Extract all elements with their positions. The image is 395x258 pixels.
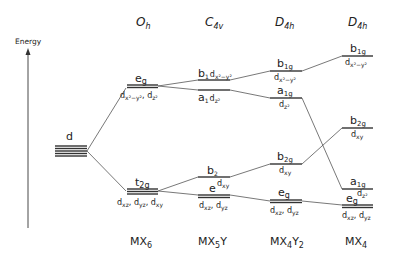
level-d4h2-b1g: b1g dx²−y²: [342, 42, 373, 69]
level-d4h1-a1g: a1g dz²: [270, 84, 302, 110]
svg-text:dxz, dyz, dxy: dxz, dyz, dxy: [117, 198, 163, 209]
level-d4h1-b2g: b2g dxy: [270, 150, 302, 177]
level-d: d: [55, 130, 87, 156]
column-d4h-mx4: b1g dx²−y² b2g dxy a1g dz² eg dxz, dyz: [342, 42, 373, 222]
svg-text:dxy: dxy: [351, 130, 364, 141]
svg-text:dxz, dyz: dxz, dyz: [342, 211, 371, 222]
svg-text:b2g: b2g: [277, 150, 293, 164]
svg-text:t2g: t2g: [135, 176, 150, 190]
svg-text:b1g: b1g: [277, 57, 293, 71]
level-d-label: d: [66, 130, 73, 143]
svg-text:a1g: a1g: [350, 175, 366, 189]
compound-labels: MX6 MX5Y MX4Y2 MX4: [130, 235, 367, 250]
level-d4h2-b2g: b2g dxy: [342, 114, 373, 141]
level-d4h2-eg: eg dxz, dyz: [342, 192, 373, 222]
svg-text:a1dz²: a1dz²: [198, 91, 221, 104]
compound-mx5y: MX5Y: [198, 235, 227, 250]
level-oh-t2g: t2g dxz, dyz, dxy: [117, 176, 163, 209]
svg-text:dxz, dyz: dxz, dyz: [270, 206, 299, 217]
svg-text:eg: eg: [278, 186, 290, 200]
compound-mx4y2: MX4Y2: [270, 235, 304, 250]
svg-text:dz²: dz²: [279, 100, 290, 110]
energy-axis: Energy: [15, 37, 42, 228]
svg-text:dz²: dz²: [357, 189, 368, 199]
svg-text:dxz, dyz: dxz, dyz: [199, 201, 228, 212]
level-d4h1-b1g: b1g dx²−y²: [270, 57, 302, 84]
svg-text:eg: eg: [135, 72, 147, 86]
svg-text:dxy: dxy: [279, 166, 292, 177]
header-d4h-2: D4h: [348, 15, 367, 31]
svg-text:dxy: dxy: [217, 179, 230, 190]
svg-text:b2: b2: [207, 164, 218, 177]
level-d4h1-eg: eg dxz, dyz: [270, 186, 302, 217]
svg-text:dx²−y², dz²: dx²−y², dz²: [120, 91, 158, 102]
level-c4v-b1: b1dx²−y²: [198, 67, 232, 81]
diagram-canvas: Energy Oh C4v D4h D4h d: [0, 0, 395, 258]
svg-text:b1dx²−y²: b1dx²−y²: [198, 67, 232, 81]
compound-mx4: MX4: [345, 235, 367, 250]
column-d4h-mx4y2: b1g dx²−y² a1g dz² b2g dxy eg dxz, dyz: [270, 57, 302, 217]
column-headers: Oh C4v D4h D4h: [136, 15, 367, 31]
svg-text:b2g: b2g: [350, 114, 366, 128]
column-c4v: b1dx²−y² a1dz² b2 dxy e dxz, dyz: [198, 67, 232, 212]
crystal-field-diagram: Energy Oh C4v D4h D4h d: [0, 0, 395, 258]
header-c4v: C4v: [205, 15, 223, 31]
compound-mx6: MX6: [130, 235, 152, 250]
level-oh-eg: eg dx²−y², dz²: [120, 72, 158, 102]
svg-text:b1g: b1g: [350, 42, 366, 56]
header-d4h-1: D4h: [275, 15, 294, 31]
svg-text:dx²−y²: dx²−y²: [345, 58, 368, 69]
svg-text:dx²−y²: dx²−y²: [274, 73, 297, 84]
svg-text:e: e: [209, 182, 216, 195]
svg-text:a1g: a1g: [277, 84, 293, 98]
energy-axis-label: Energy: [15, 37, 42, 46]
header-oh: Oh: [136, 15, 151, 31]
level-c4v-a1: a1dz²: [198, 90, 230, 104]
